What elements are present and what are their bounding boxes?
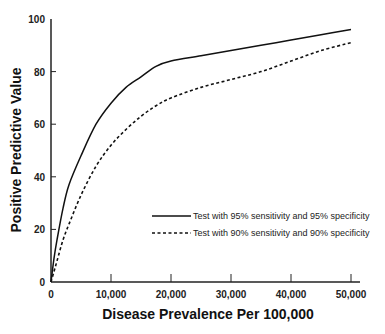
x-tick-label: 10,000 (96, 289, 127, 300)
x-tick-label: 30,000 (216, 289, 247, 300)
x-tick-label: 50,000 (336, 289, 367, 300)
y-tick-label: 20 (34, 224, 46, 235)
x-tick-label: 20,000 (156, 289, 187, 300)
legend-label-dashed: Test with 90% sensitivity and 90% specif… (193, 228, 370, 238)
legend: Test with 95% sensitivity and 95% specif… (152, 211, 370, 238)
series-line-95-95 (51, 30, 351, 282)
y-tick-label: 60 (34, 119, 46, 130)
series-lines (51, 30, 351, 282)
ppv-line-chart: 010,00020,00030,00040,00050,000020406080… (0, 0, 385, 334)
y-tick-label: 80 (34, 67, 46, 78)
y-tick-label: 0 (39, 277, 45, 288)
legend-label-solid: Test with 95% sensitivity and 95% specif… (193, 211, 370, 221)
axes (51, 19, 360, 282)
y-tick-label: 40 (34, 172, 46, 183)
x-tick-label: 0 (48, 289, 54, 300)
y-tick-label: 100 (28, 14, 45, 25)
x-tick-label: 40,000 (276, 289, 307, 300)
x-axis-title: Disease Prevalence Per 100,000 (102, 306, 314, 322)
y-axis-title: Positive Predictive Value (8, 67, 24, 232)
series-line-90-90 (51, 43, 351, 282)
